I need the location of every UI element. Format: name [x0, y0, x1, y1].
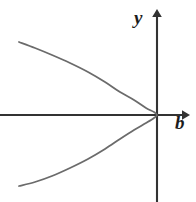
arrow-up-icon — [152, 9, 162, 17]
parabola-figure: y b — [0, 0, 196, 202]
y-axis-label: y — [134, 8, 142, 27]
plot-canvas — [0, 0, 196, 202]
x-axis — [0, 110, 190, 120]
y-axis — [152, 9, 162, 202]
x-axis-label: b — [175, 113, 185, 132]
